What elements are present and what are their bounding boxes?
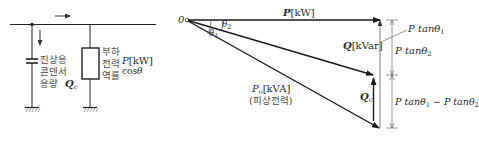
origin-label: 0 (178, 15, 184, 25)
load-power-factor-label: cosθ (122, 67, 143, 76)
load-label-line-3: 역률 (102, 71, 120, 81)
ground-icon (25, 108, 40, 113)
phasor-diagram (185, 18, 407, 128)
apparent-power-note: (피상전력) (249, 96, 292, 106)
ground-icon (83, 108, 98, 113)
capacitor-label-line-2: 콘덴서 (40, 67, 67, 77)
apparent-power-label: Po[kVA] (252, 84, 290, 96)
capacitor-symbol: Qc (65, 79, 77, 91)
capacitor-label-line-3: 용량 (40, 79, 58, 89)
load-label-line-2: 전력 (102, 59, 120, 69)
ptan-difference-label: P tanθ1 − P tanθ2 (395, 97, 479, 109)
theta1-label: θ1 (209, 29, 218, 40)
load-label-line-1: 부하 (102, 47, 120, 57)
ptan1-label: P tanθ1 (408, 24, 445, 36)
qc-label: Qc (360, 92, 372, 104)
ptan1-leader (381, 30, 407, 42)
real-power-label: P[kW] (283, 8, 315, 18)
theta2-label: θ2 (222, 20, 231, 31)
reactive-power-label: Q[kVar] (343, 41, 383, 51)
capacitor-label-line-1: 진상용 (40, 55, 67, 65)
dimension-lines (386, 20, 398, 128)
ptan2-label: P tanθ2 (395, 46, 432, 58)
load-box (82, 48, 99, 79)
load-power-label: P[kW] (122, 56, 153, 66)
